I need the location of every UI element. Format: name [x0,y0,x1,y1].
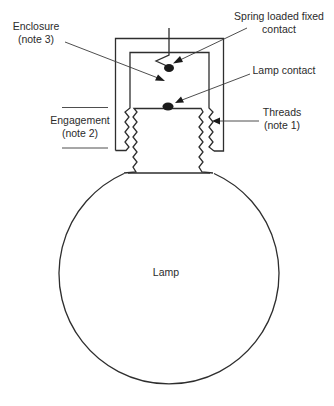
label-threads-line1: Threads [260,106,304,119]
label-engagement-line1: Engagement [48,114,112,127]
label-spring-line1: Spring loaded fixed [229,10,329,23]
spring-contact-blob [164,64,174,72]
label-enclosure-line1: Enclosure [10,20,62,33]
label-enclosure: Enclosure (note 3) [10,20,62,45]
lamp-base-threads [124,109,213,174]
label-spring-line2: contact [229,23,329,36]
lamp-contact-blob [163,103,174,111]
label-lamp-contact: Lamp contact [250,64,318,77]
label-lamp: Lamp [146,266,186,279]
lamp-bulb [59,174,279,384]
lamp-enclosure-diagram [0,0,334,406]
label-threads: Threads (note 1) [260,106,304,131]
label-lamp-text: Lamp [146,266,186,279]
spring-contact [156,28,174,72]
label-engagement-line2: (note 2) [48,127,112,140]
leader-arrows [65,28,259,125]
label-enclosure-line2: (note 3) [10,33,62,46]
label-lamp-contact-text: Lamp contact [250,64,318,77]
label-threads-line2: (note 1) [260,119,304,132]
label-spring-contact: Spring loaded fixed contact [229,10,329,35]
label-engagement: Engagement (note 2) [48,114,112,139]
